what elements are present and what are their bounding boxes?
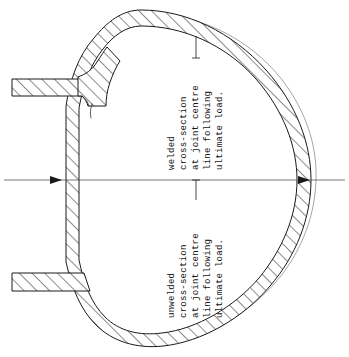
annotation-unwelded-line-4: ultimate load.	[214, 239, 225, 318]
annotation-unwelded-line-2: at joint centre	[190, 233, 201, 318]
leader-line-unwelded	[192, 180, 200, 200]
annotation-welded-line-0: welded	[166, 136, 177, 170]
upper-nozzle-tube	[12, 79, 82, 96]
annotation-welded: welded cross-section at joint centre lin…	[166, 85, 225, 170]
annotation-welded-line-3: line following	[202, 91, 213, 170]
annotation-welded-line-1: cross-section	[178, 96, 189, 170]
annotation-unwelded-line-3: line following	[202, 239, 213, 318]
annotation-unwelded-line-1: cross-section	[178, 244, 189, 318]
lower-nozzle-tube	[12, 273, 90, 291]
annotation-unwelded-line-0: unwelded	[166, 273, 177, 318]
annotation-welded-line-4: ultimate load.	[214, 91, 225, 170]
engineering-diagram: welded cross-section at joint centre lin…	[0, 0, 349, 357]
horizontal-centre-line	[4, 176, 345, 184]
annotation-welded-line-2: at joint centre	[190, 85, 201, 170]
leader-line-welded	[192, 36, 200, 58]
annotation-unwelded: unwelded cross-section at joint centre l…	[166, 233, 225, 318]
cross-section-figure: welded cross-section at joint centre lin…	[0, 0, 349, 357]
